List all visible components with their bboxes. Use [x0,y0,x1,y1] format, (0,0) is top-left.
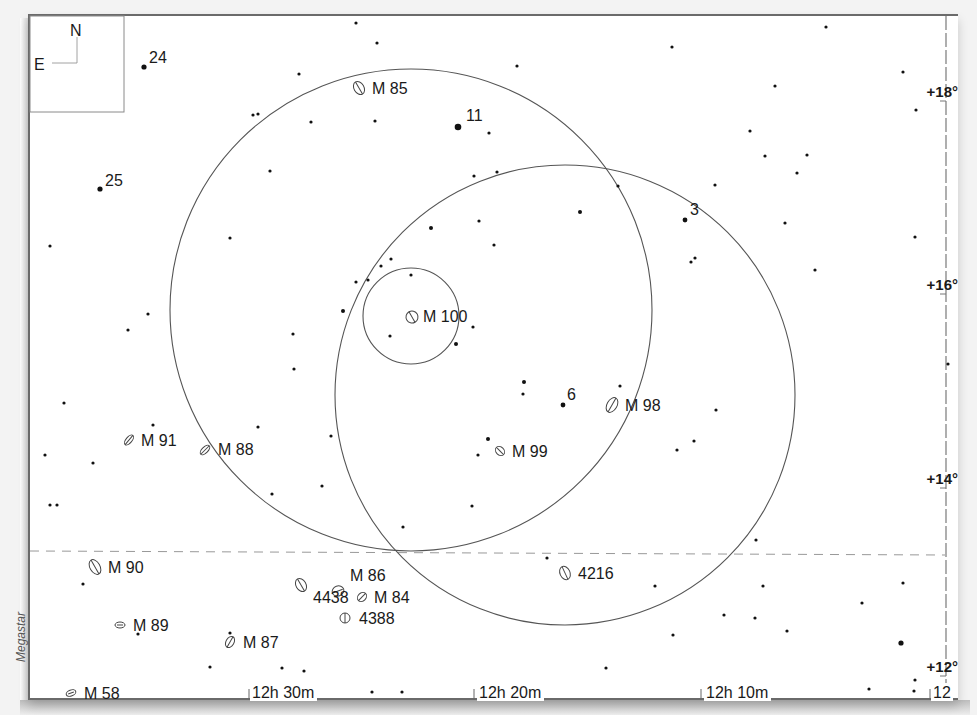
star-dot [495,170,498,173]
galaxy-symbol-icon [65,688,76,697]
star-dot [297,72,300,75]
galaxy-label: M 91 [141,432,177,449]
star-dot [97,186,102,191]
galaxy-label: M 99 [512,443,548,460]
star-dot [653,584,656,587]
galaxy-label: 4388 [359,610,395,627]
galaxy-symbol-icon [351,79,367,96]
star-dot [55,503,58,506]
galaxy-label: 4438 [313,589,349,606]
ra-label: 12h 30m [252,684,314,701]
star-dot [545,556,548,559]
star-dot [341,309,345,313]
star-dot [146,312,149,315]
star-chart-page: N E +18°+16°+14°+12° 12h 30m12h 20m12h 1… [0,0,977,715]
star-dot [400,690,403,693]
star-designation-label: 25 [105,172,123,189]
compass-east-label: E [34,56,45,73]
star-dot [256,425,259,428]
star-dot [228,236,231,239]
star-dot [683,218,688,223]
star-dot [913,235,916,238]
galaxy-symbol-icon [604,396,621,415]
galaxy-symbol-icon [115,622,125,628]
star-dot [754,538,757,541]
ra-label: 12 [933,684,951,701]
credit-label: Megastar [14,602,28,672]
star-dot [561,403,566,408]
star-dot [268,169,271,172]
star-dot [860,601,863,604]
star-dot [48,503,51,506]
galaxy-symbol-icon [558,565,573,582]
star-dot [43,453,46,456]
star-dot [867,687,870,690]
star-dot [472,174,475,177]
star-dot [722,613,725,616]
star-dot [492,243,495,246]
star-dot [714,408,717,411]
star-labels: 24112536 [105,49,699,403]
star-dot [487,131,490,134]
star-dot [389,257,392,260]
star-dot [713,183,716,186]
star-dot [270,492,273,495]
star-dot [521,392,524,395]
star-dot [471,325,474,328]
galaxy-label: M 58 [84,685,120,702]
star-dot [126,328,129,331]
star-dot [401,525,404,528]
finder-field-large-2 [335,165,795,625]
star-dot [251,113,254,116]
galaxy-label: M 98 [625,397,661,414]
star-dot [320,484,323,487]
star-dot [370,690,373,693]
star-dot [805,153,808,156]
stars [43,21,949,693]
star-dot [693,256,696,259]
star-dot [48,244,51,247]
declination-label: +14° [927,470,958,487]
galaxy-symbol-icon [224,635,237,649]
galaxy-label: M 87 [243,634,279,651]
compass-north-label: N [70,22,82,39]
star-dot [208,665,211,668]
star-dot [151,423,154,426]
star-dot [409,273,412,276]
star-dot [692,439,695,442]
right-ascension-labels: 12h 30m12h 20m12h 10m12 [249,683,953,701]
star-dot [470,504,473,507]
field-of-view-circles [170,69,795,625]
star-dot [824,25,827,28]
star-dot [901,70,904,73]
star-dot [616,184,619,187]
galaxy-symbol-icon [494,445,507,458]
star-dot [256,112,259,115]
star-dot [309,120,312,123]
star-dot [373,119,376,122]
finder-field-large-1 [170,69,652,551]
declination-labels: +18°+16°+14°+12° [927,83,958,676]
galaxy-label: M 86 [350,567,386,584]
galaxy-symbol-icon [199,444,212,457]
galaxy-symbol-icon [293,576,309,593]
ra-label: 12h 20m [479,684,541,701]
star-dot [898,640,903,645]
declination-label: +16° [927,276,958,293]
star-dot [914,108,917,111]
star-dot [477,219,480,222]
star-dot [141,64,146,69]
galaxy-symbol-icon [404,309,420,325]
galaxy-label: M 84 [374,589,410,606]
star-dot [366,278,369,281]
star-dot [912,689,915,692]
star-dot [795,171,798,174]
star-dot [354,21,357,24]
galaxy-label: M 89 [133,617,169,634]
star-dot [81,582,84,585]
star-dot [901,581,904,584]
star-dot [604,666,607,669]
star-dot [773,84,776,87]
galaxy-symbol-icon [123,433,135,446]
star-designation-label: 24 [149,49,167,66]
